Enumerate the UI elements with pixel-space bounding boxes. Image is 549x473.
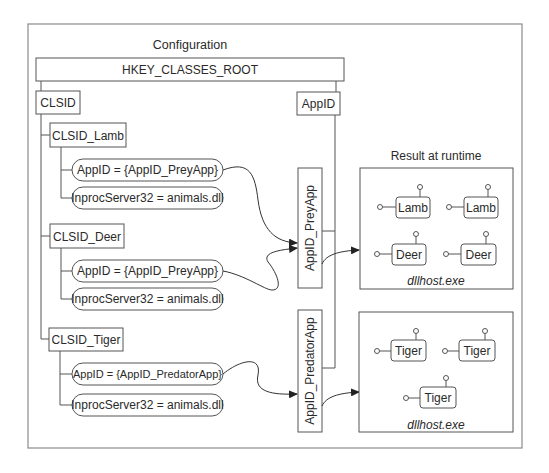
svg-text:Deer: Deer (396, 248, 422, 262)
interface-lollipop-icon (375, 252, 380, 257)
svg-text:Tiger: Tiger (425, 391, 452, 405)
interface-lollipop-icon (444, 376, 449, 381)
interface-lollipop-icon (418, 185, 423, 190)
runtime-process-predator[interactable]: dllhost.exe (359, 312, 513, 432)
svg-text:InprocServer32 = animals.dll: InprocServer32 = animals.dll (71, 191, 223, 205)
appid-predatorapp-label: AppID_PredatorApp (303, 317, 317, 425)
svg-text:Tiger: Tiger (395, 344, 422, 358)
deer-to-preyapp-arrow (223, 248, 297, 290)
svg-text:AppID = {AppID_PredatorApp}: AppID = {AppID_PredatorApp} (73, 368, 222, 380)
appid-preyapp-label: AppID_PreyApp (303, 185, 317, 271)
clsid-label: CLSID (40, 96, 76, 110)
clsid-node[interactable]: CLSID (36, 91, 80, 114)
interface-lollipop-icon (486, 185, 491, 190)
process-name: dllhost.exe (407, 418, 465, 432)
interface-lollipop-icon (443, 349, 448, 354)
configuration-title: Configuration (153, 38, 227, 52)
interface-lollipop-icon (414, 329, 419, 334)
process-name: dllhost.exe (407, 274, 465, 288)
tiger-appid-value[interactable]: AppID = {AppID_PredatorApp} (72, 363, 223, 385)
svg-text:InprocServer32 = animals.dll: InprocServer32 = animals.dll (71, 398, 223, 412)
predatorapp-to-runtime-arrow (322, 392, 359, 406)
svg-text:InprocServer32 = animals.dll: InprocServer32 = animals.dll (71, 292, 223, 306)
interface-lollipop-icon (483, 329, 488, 334)
appid-label: AppID (302, 97, 336, 111)
lamb-to-preyapp-arrow (223, 167, 297, 243)
deer-appid-value[interactable]: AppID = {AppID_PreyApp} (72, 260, 223, 282)
appid-node[interactable]: AppID (297, 92, 340, 115)
clsid-lamb-label: CLSID_Lamb (52, 129, 124, 143)
interface-lollipop-icon (444, 252, 449, 257)
tiger-to-predatorapp-arrow (223, 362, 297, 394)
clsid-tiger-label: CLSID_Tiger (52, 333, 121, 347)
svg-text:Deer: Deer (465, 248, 491, 262)
clsid-deer-node[interactable]: CLSID_Deer (50, 224, 124, 248)
clsid-lamb-node[interactable]: CLSID_Lamb (50, 123, 126, 147)
hkey-classes-root-node[interactable]: HKEY_CLASSES_ROOT (36, 58, 344, 81)
clsid-deer-label: CLSID_Deer (53, 230, 121, 244)
interface-lollipop-icon (484, 232, 489, 237)
interface-lollipop-icon (447, 205, 452, 210)
svg-text:Lamb: Lamb (398, 201, 428, 215)
interface-lollipop-icon (404, 396, 409, 401)
lamb-appid-value[interactable]: AppID = {AppID_PreyApp} (72, 159, 223, 181)
interface-lollipop-icon (378, 205, 383, 210)
appid-predatorapp-node[interactable]: AppID_PredatorApp (298, 310, 322, 432)
svg-text:Tiger: Tiger (464, 344, 491, 358)
deer-inprocserver-value[interactable]: InprocServer32 = animals.dll (71, 288, 223, 310)
clsid-tiger-node[interactable]: CLSID_Tiger (49, 328, 123, 351)
svg-text:AppID = {AppID_PreyApp}: AppID = {AppID_PreyApp} (77, 264, 218, 278)
interface-lollipop-icon (375, 349, 380, 354)
preyapp-to-runtime-arrow (322, 250, 359, 264)
appid-preyapp-node[interactable]: AppID_PreyApp (298, 168, 322, 288)
runtime-title: Result at runtime (391, 149, 482, 163)
interface-lollipop-icon (414, 232, 419, 237)
svg-text:AppID = {AppID_PreyApp}: AppID = {AppID_PreyApp} (77, 163, 218, 177)
tiger-inprocserver-value[interactable]: InprocServer32 = animals.dll (71, 394, 223, 416)
lamb-inprocserver-value[interactable]: InprocServer32 = animals.dll (71, 187, 223, 209)
svg-text:Lamb: Lamb (466, 201, 496, 215)
hkey-classes-root-label: HKEY_CLASSES_ROOT (122, 63, 259, 77)
